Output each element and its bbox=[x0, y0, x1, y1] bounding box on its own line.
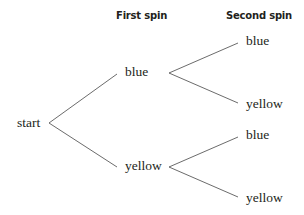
tree-diagram: First spin Second spin start blue yellow… bbox=[0, 0, 304, 215]
edge-yellow-to-blue bbox=[169, 137, 238, 167]
edge-start-to-blue bbox=[49, 74, 117, 123]
edge-start-to-yellow bbox=[49, 123, 117, 167]
node-first-yellow: yellow bbox=[125, 159, 162, 173]
edge-yellow-to-yellow bbox=[169, 167, 238, 197]
edge-blue-to-blue bbox=[169, 43, 238, 73]
node-first-blue: blue bbox=[125, 65, 148, 79]
first-spin-header: First spin bbox=[116, 10, 167, 21]
second-spin-header: Second spin bbox=[226, 10, 292, 21]
edge-blue-to-yellow bbox=[169, 73, 238, 103]
node-start: start bbox=[17, 116, 40, 130]
node-blue-yellow: yellow bbox=[246, 97, 283, 111]
node-blue-blue: blue bbox=[246, 34, 269, 48]
node-yellow-blue: blue bbox=[246, 128, 269, 142]
node-yellow-yellow: yellow bbox=[246, 191, 283, 205]
